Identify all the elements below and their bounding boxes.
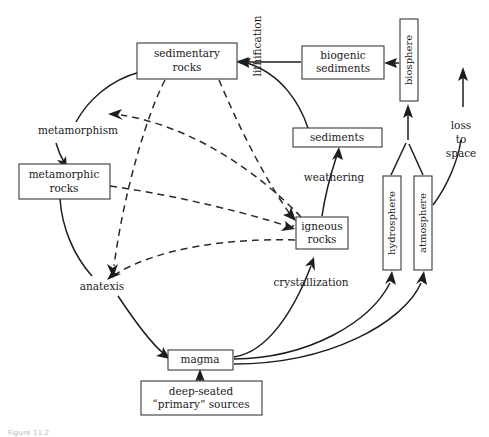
label-loss-to-space: loss to space <box>446 119 476 159</box>
label-crystallization: crystallization <box>273 276 348 288</box>
box-biosphere-label: biosphere <box>403 35 414 85</box>
flow-biosphere-to-biogenic <box>384 58 399 68</box>
flow-igneous-to-anatexis-dashed <box>107 240 295 280</box>
flow-metamorphic-to-igneous-dashed <box>110 186 295 231</box>
box-metamorphic-rocks-line1: metamorphic <box>29 168 100 180</box>
flow-igneous-to-metamorphic-dashed <box>108 109 301 217</box>
box-sediments-label: sediments <box>310 131 364 143</box>
label-metamorphism: metamorphism <box>38 124 118 136</box>
label-loss-line2: to <box>456 133 467 145</box>
box-hydrosphere-label: hydrosphere <box>386 191 397 255</box>
box-deep-seated-sources[interactable]: deep-seated “primary” sources <box>141 381 262 415</box>
box-sedimentary-rocks-line1: sedimentary <box>154 47 220 59</box>
box-biogenic-sediments-line1: biogenic <box>320 49 365 61</box>
label-weathering: weathering <box>304 171 365 183</box>
box-sediments[interactable]: sediments <box>293 128 382 147</box>
flow-sedimentary-to-igneous-dashed <box>219 80 296 221</box>
label-anatexis: anatexis <box>80 280 124 292</box>
flow-sedimentary-to-metamorphic <box>56 72 140 170</box>
label-loss-line3: space <box>446 147 476 159</box>
diagram-canvas: sedimentary rocks biogenic sediments bio… <box>0 0 489 437</box>
label-lithification: lithification <box>251 15 263 76</box>
box-atmosphere[interactable]: atmosphere <box>414 176 432 270</box>
flow-atmosphere-to-biosphere <box>409 144 423 175</box>
box-magma[interactable]: magma <box>168 350 233 370</box>
box-deep-seated-sources-line1: deep-seated <box>169 385 234 397</box>
flow-sediments-to-sedimentary <box>237 58 308 128</box>
flow-deep-sources-to-magma <box>195 369 205 382</box>
box-igneous-rocks-line2: rocks <box>308 233 337 245</box>
box-deep-seated-sources-line2: “primary” sources <box>152 398 249 410</box>
flow-anatexis-to-magma <box>118 296 170 359</box>
figure-caption: Figure 11.2 <box>8 429 49 437</box>
box-sedimentary-rocks-line2: rocks <box>173 61 202 73</box>
box-hydrosphere[interactable]: hydrosphere <box>383 176 401 270</box>
rock-cycle-diagram: sedimentary rocks biogenic sediments bio… <box>0 0 489 437</box>
flow-metamorphic-to-anatexis <box>60 199 92 276</box>
box-sedimentary-rocks[interactable]: sedimentary rocks <box>137 43 237 79</box>
flow-sedimentary-to-anatexis-dashed <box>107 80 165 278</box>
box-biosphere[interactable]: biosphere <box>400 19 418 101</box>
box-metamorphic-rocks-line2: rocks <box>50 182 79 194</box>
box-biogenic-sediments[interactable]: biogenic sediments <box>302 46 384 79</box>
box-igneous-rocks[interactable]: igneous rocks <box>296 217 348 249</box>
box-atmosphere-label: atmosphere <box>417 193 428 253</box>
box-biogenic-sediments-line2: sediments <box>316 62 370 74</box>
label-loss-line1: loss <box>451 119 471 131</box>
flow-hydrosphere-to-biosphere <box>391 104 413 175</box>
box-magma-label: magma <box>180 353 219 365</box>
flow-magma-to-igneous <box>234 257 315 357</box>
box-igneous-rocks-line1: igneous <box>301 220 343 232</box>
box-metamorphic-rocks[interactable]: metamorphic rocks <box>19 164 110 199</box>
